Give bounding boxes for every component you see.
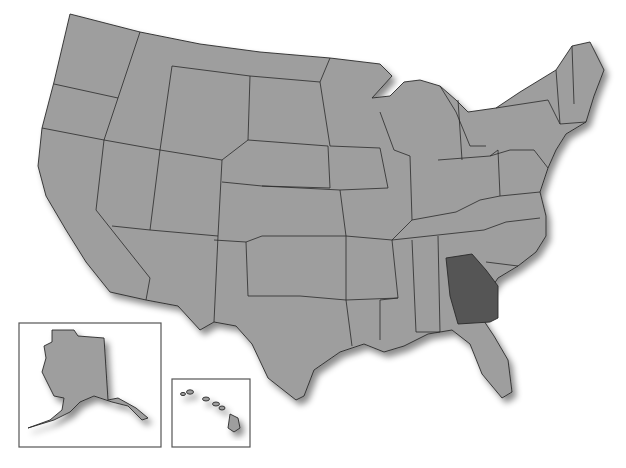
- hawaii-inset-frame: [172, 379, 250, 447]
- us-map: [0, 0, 626, 468]
